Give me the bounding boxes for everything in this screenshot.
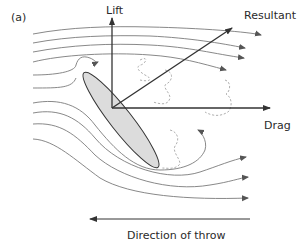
disc-body [75, 66, 166, 174]
drag-label: Drag [264, 120, 291, 131]
panel-label: (a) [11, 12, 26, 23]
lift-label: Lift [106, 5, 123, 16]
resultant-label: Resultant [244, 10, 296, 21]
resultant-vector [112, 28, 232, 108]
direction-label: Direction of throw [127, 230, 226, 241]
upper-streamlines [33, 27, 261, 70]
force-vectors [112, 18, 270, 108]
aerodynamics-diagram [0, 0, 303, 250]
